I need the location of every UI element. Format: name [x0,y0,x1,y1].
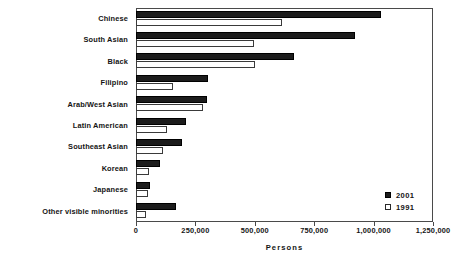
bar-group [136,29,433,50]
bar-1991 [136,19,282,26]
bar-group [136,72,433,93]
bar-2001 [136,75,208,82]
bar-1991 [136,40,254,47]
legend-item-2001: 2001 [385,189,441,201]
visible-minority-population-bar-chart: ChineseSouth AsianBlackFilipinoArab/West… [0,0,465,264]
x-tick-label: 500,000 [241,226,269,235]
legend-label-1991: 1991 [396,203,415,212]
x-axis-tick-labels: 0250,000500,000750,0001,000,0001,250,000 [0,226,465,240]
bar-2001 [136,160,160,167]
category-label: Arab/West Asian [0,94,132,115]
legend-swatch-2001-icon [385,192,391,198]
x-tick-mark [374,222,375,226]
x-tick-label: 1,250,000 [416,226,451,235]
bar-1991 [136,211,146,218]
x-tick-mark [136,222,137,226]
category-label: Korean [0,158,132,179]
bar-1991 [136,104,203,111]
bar-2001 [136,139,182,146]
category-label: South Asian [0,29,132,50]
bar-1991 [136,147,163,154]
category-label: Black [0,51,132,72]
legend-label-2001: 2001 [396,191,415,200]
x-axis-title: Persons [136,243,433,252]
x-tick-label: 1,000,000 [356,226,391,235]
bar-1991 [136,126,167,133]
bar-2001 [136,118,186,125]
bar-2001 [136,203,176,210]
bar-2001 [136,96,207,103]
x-tick-mark [255,222,256,226]
bar-2001 [136,53,294,60]
bar-group [136,136,433,157]
bar-2001 [136,182,150,189]
x-tick-label: 250,000 [181,226,209,235]
bar-group [136,51,433,72]
category-label: Other visible minorities [0,201,132,222]
chart-legend: 2001 1991 [385,189,441,213]
bar-group [136,115,433,136]
bar-1991 [136,190,148,197]
category-label: Filipino [0,72,132,93]
bar-group [136,158,433,179]
legend-item-1991: 1991 [385,201,441,213]
x-tick-mark [195,222,196,226]
x-tick-mark [433,222,434,226]
category-label: Latin American [0,115,132,136]
bar-1991 [136,61,255,68]
x-tick-label: 0 [134,226,138,235]
bar-2001 [136,11,381,18]
legend-swatch-1991-icon [385,204,391,210]
bar-group [136,94,433,115]
bar-group [136,8,433,29]
bar-1991 [136,168,149,175]
category-axis-labels: ChineseSouth AsianBlackFilipinoArab/West… [0,8,132,222]
category-label: Japanese [0,179,132,200]
bar-1991 [136,83,173,90]
x-tick-label: 750,000 [300,226,328,235]
category-label: Chinese [0,8,132,29]
bar-2001 [136,32,355,39]
category-label: Southeast Asian [0,136,132,157]
x-tick-mark [314,222,315,226]
